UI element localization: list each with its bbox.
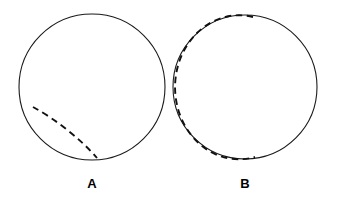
- figure-canvas: A B: [0, 0, 342, 207]
- sphere-outline-b: [173, 15, 317, 159]
- panel-a: A: [19, 14, 165, 191]
- panel-label-a: A: [87, 176, 97, 191]
- great-circle-arc-a: [33, 107, 97, 158]
- sphere-outline-a: [19, 14, 165, 160]
- panel-label-b: B: [240, 176, 249, 191]
- two-sphere-diagram: A B: [0, 0, 342, 207]
- great-circle-arc-b: [175, 15, 255, 159]
- panel-b: B: [173, 15, 317, 191]
